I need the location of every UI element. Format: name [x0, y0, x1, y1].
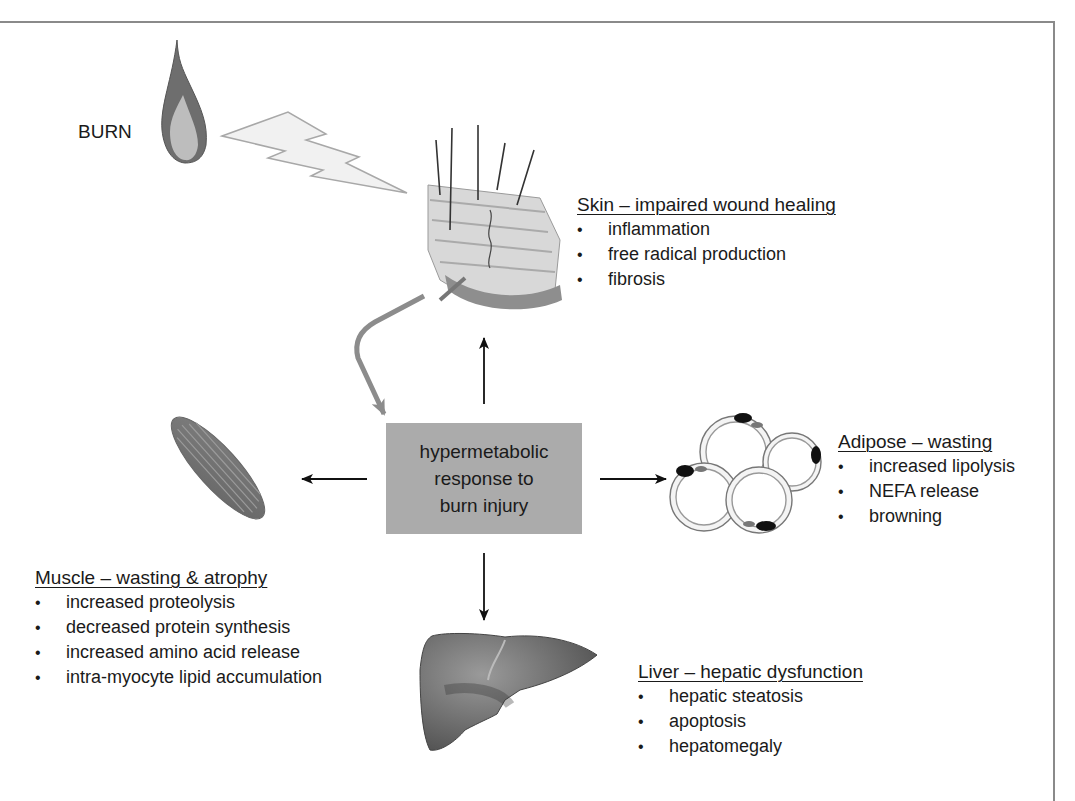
- hypermetabolic-response-box: hypermetabolic response to burn injury: [386, 423, 582, 534]
- list-item: free radical production: [577, 242, 836, 267]
- center-line-3: burn injury: [420, 492, 549, 519]
- list-item: increased proteolysis: [35, 590, 322, 615]
- list-item: increased amino acid release: [35, 640, 322, 665]
- list-item: intra-myocyte lipid accumulation: [35, 665, 322, 690]
- muscle-heading: Muscle – wasting & atrophy: [35, 566, 322, 590]
- list-item: decreased protein synthesis: [35, 615, 322, 640]
- list-item: NEFA release: [838, 479, 1015, 504]
- list-item: hepatomegaly: [638, 734, 863, 759]
- feedback-arrow: [357, 296, 424, 414]
- muscle-list: increased proteolysis decreased protein …: [35, 590, 322, 690]
- skin-heading: Skin – impaired wound healing: [577, 193, 836, 217]
- lightning-bolt-icon: [222, 112, 407, 193]
- burn-label: BURN: [78, 121, 132, 143]
- adipose-list: increased lipolysis NEFA release brownin…: [838, 454, 1015, 529]
- flame-icon: [162, 40, 207, 163]
- list-item: browning: [838, 504, 1015, 529]
- muscle-icon: [159, 406, 277, 531]
- adipocytes-icon: [670, 413, 821, 533]
- skin-block: Skin – impaired wound healing inflammati…: [577, 193, 836, 292]
- adipose-heading: Adipose – wasting: [838, 430, 1015, 454]
- adipose-block: Adipose – wasting increased lipolysis NE…: [838, 430, 1015, 529]
- list-item: fibrosis: [577, 267, 836, 292]
- liver-list: hepatic steatosis apoptosis hepatomegaly: [638, 684, 863, 759]
- liver-heading: Liver – hepatic dysfunction: [638, 660, 863, 684]
- liver-block: Liver – hepatic dysfunction hepatic stea…: [638, 660, 863, 759]
- list-item: increased lipolysis: [838, 454, 1015, 479]
- skin-cross-section-icon: [428, 125, 562, 309]
- liver-icon: [420, 633, 597, 750]
- center-line-1: hypermetabolic: [420, 438, 549, 465]
- muscle-block: Muscle – wasting & atrophy increased pro…: [35, 566, 322, 690]
- list-item: inflammation: [577, 217, 836, 242]
- skin-list: inflammation free radical production fib…: [577, 217, 836, 292]
- list-item: apoptosis: [638, 709, 863, 734]
- list-item: hepatic steatosis: [638, 684, 863, 709]
- center-line-2: response to: [420, 465, 549, 492]
